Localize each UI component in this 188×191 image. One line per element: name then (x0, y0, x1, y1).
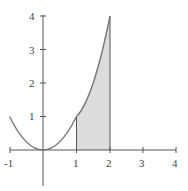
x-tick-label: -1 (4, 157, 13, 169)
chart: -1 1 2 3 4 1 2 3 4 (0, 0, 188, 191)
x-tick-label: 2 (106, 157, 112, 169)
y-tick-label: 1 (29, 110, 35, 122)
y-tick-label: 2 (29, 77, 35, 89)
x-tick-label: 3 (139, 157, 145, 169)
y-tick-label: 4 (29, 10, 35, 22)
x-tick-label: 4 (172, 157, 178, 169)
y-tick-label: 3 (29, 44, 35, 56)
x-tick-label: 1 (73, 157, 79, 169)
